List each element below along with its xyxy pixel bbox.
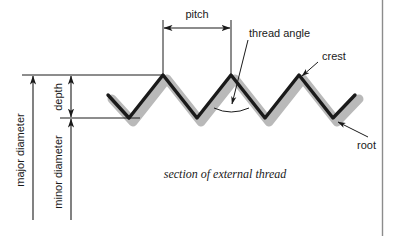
thread-angle-label: thread angle xyxy=(249,27,310,39)
figure-caption: section of external thread xyxy=(164,167,288,181)
crest-label: crest xyxy=(322,50,346,62)
thread-diagram-figure: pitch thread angle crest root depth majo… xyxy=(0,0,400,236)
depth-label: depth xyxy=(52,83,64,111)
major-diameter-label: major diameter xyxy=(14,113,26,187)
root-label: root xyxy=(357,139,376,151)
minor-diameter-label: minor diameter xyxy=(52,135,64,209)
thread-diagram-canvas: pitch thread angle crest root depth majo… xyxy=(0,0,400,236)
pitch-label: pitch xyxy=(185,8,208,20)
